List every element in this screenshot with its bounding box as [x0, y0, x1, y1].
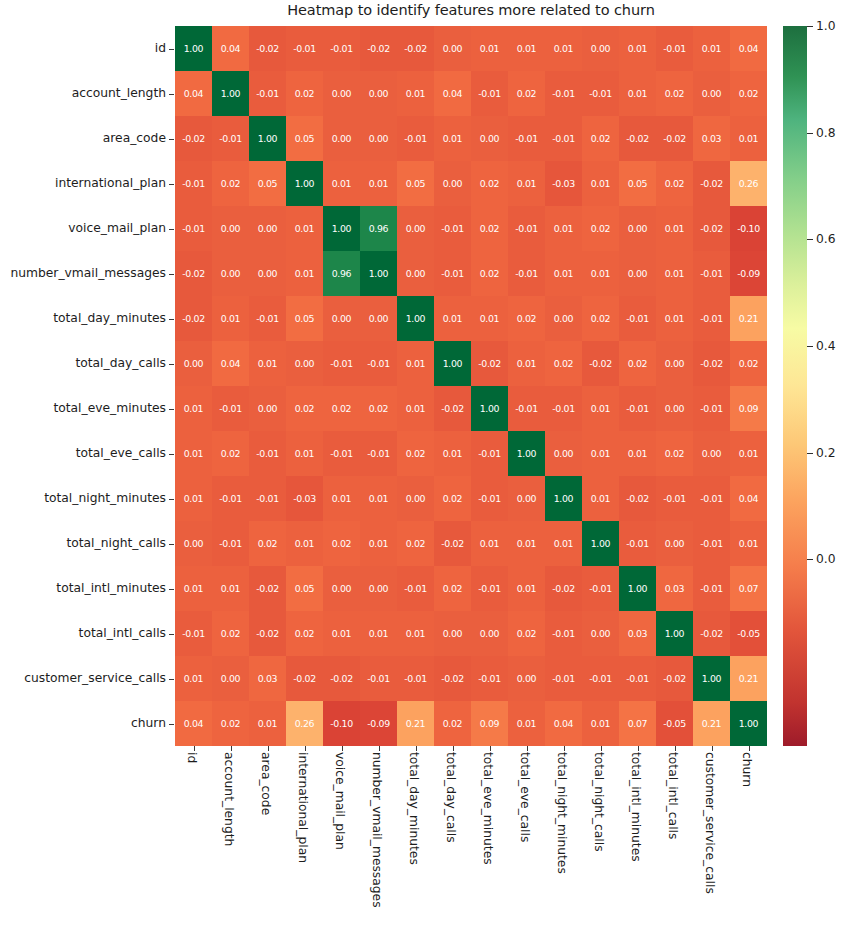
- y-tick-label: number_vmail_messages: [10, 251, 166, 296]
- heatmap-cell: 0.05: [286, 566, 323, 611]
- heatmap-cell: 0.03: [656, 566, 693, 611]
- y-tick-mark: [169, 634, 174, 635]
- heatmap-cell: -0.01: [249, 296, 286, 341]
- heatmap-cell: -0.01: [545, 656, 582, 701]
- heatmap-cell: -0.02: [693, 206, 730, 251]
- heatmap-cell: 0.01: [434, 431, 471, 476]
- heatmap-cell: 0.02: [286, 611, 323, 656]
- heatmap-cell: 0.02: [656, 431, 693, 476]
- heatmap-cell: -0.01: [508, 251, 545, 296]
- x-tick-label: international_plan: [296, 752, 310, 863]
- heatmap-cell: 1.00: [730, 701, 767, 746]
- heatmap-cell: -0.01: [693, 521, 730, 566]
- chart-title: Heatmap to identify features more relate…: [175, 2, 767, 18]
- colorbar-container: 1.00.80.60.40.20.0: [783, 26, 807, 746]
- heatmap-cell: -0.01: [693, 386, 730, 431]
- heatmap-cell: 0.00: [582, 26, 619, 71]
- y-tick-label: total_day_minutes: [53, 296, 166, 341]
- heatmap-cell: 0.00: [249, 206, 286, 251]
- heatmap-cell: -0.01: [619, 386, 656, 431]
- colorbar-tick-mark: [807, 346, 813, 347]
- y-tick-label: churn: [131, 701, 166, 746]
- heatmap-cell: 0.02: [434, 566, 471, 611]
- heatmap-cell: 1.00: [397, 296, 434, 341]
- heatmap-cell: -0.03: [545, 161, 582, 206]
- heatmap-cell: 0.00: [619, 206, 656, 251]
- x-tick-mark: [231, 746, 232, 751]
- colorbar-tick-mark: [807, 26, 813, 27]
- x-axis-labels: idaccount_lengtharea_codeinternational_p…: [175, 746, 767, 925]
- y-tick-mark: [169, 139, 174, 140]
- y-tick-label: total_intl_calls: [79, 611, 166, 656]
- heatmap-cell: -0.01: [212, 521, 249, 566]
- heatmap-cell: -0.01: [175, 161, 212, 206]
- heatmap-cell: 0.01: [582, 161, 619, 206]
- heatmap-cell: 0.00: [471, 116, 508, 161]
- heatmap-cell: -0.09: [730, 251, 767, 296]
- heatmap-cell: 0.02: [360, 386, 397, 431]
- heatmap-cell: -0.02: [249, 26, 286, 71]
- heatmap-cell: -0.02: [656, 116, 693, 161]
- heatmap-cell: -0.01: [693, 251, 730, 296]
- heatmap-cell: 0.00: [360, 116, 397, 161]
- colorbar-tick-label: 0.8: [816, 126, 836, 140]
- heatmap-cell: -0.05: [656, 701, 693, 746]
- heatmap-cell: 0.04: [730, 26, 767, 71]
- heatmap-cell: 0.21: [730, 296, 767, 341]
- y-tick-label: total_night_minutes: [44, 476, 166, 521]
- y-tick-mark: [169, 679, 174, 680]
- heatmap-cell: 0.01: [249, 341, 286, 386]
- heatmap-cell: -0.01: [508, 386, 545, 431]
- heatmap-cell: 0.01: [656, 296, 693, 341]
- heatmap-cell: -0.01: [545, 611, 582, 656]
- heatmap-cell: 0.02: [323, 386, 360, 431]
- heatmap-cell: 0.00: [360, 71, 397, 116]
- x-tick-label: churn: [740, 752, 754, 787]
- heatmap-cell: 0.03: [693, 116, 730, 161]
- x-tick-mark: [453, 746, 454, 751]
- heatmap-cell: 0.04: [730, 476, 767, 521]
- y-tick-mark: [169, 364, 174, 365]
- heatmap-cell: -0.02: [434, 386, 471, 431]
- heatmap-cell: -0.01: [471, 476, 508, 521]
- heatmap-cell: 0.00: [508, 656, 545, 701]
- heatmap-cell: 0.00: [323, 116, 360, 161]
- heatmap-cell: 0.02: [397, 521, 434, 566]
- heatmap-cell: -0.02: [360, 26, 397, 71]
- heatmap-cell: 0.02: [656, 71, 693, 116]
- y-tick-label: total_day_calls: [75, 341, 166, 386]
- x-tick-label: total_intl_minutes: [629, 752, 643, 862]
- heatmap-cell: -0.01: [323, 26, 360, 71]
- heatmap-cell: 0.01: [619, 71, 656, 116]
- heatmap-cell: 0.01: [397, 71, 434, 116]
- heatmap-cell: -0.02: [619, 116, 656, 161]
- heatmap-cell: 0.00: [656, 521, 693, 566]
- colorbar-tick-label: 0.2: [816, 446, 836, 460]
- heatmap-cell: 0.21: [730, 656, 767, 701]
- heatmap-cell: -0.01: [471, 566, 508, 611]
- heatmap-cell: -0.01: [323, 341, 360, 386]
- heatmap-cell: 0.01: [730, 431, 767, 476]
- heatmap-cell: 0.02: [286, 386, 323, 431]
- heatmap-cell: 0.01: [286, 431, 323, 476]
- heatmap-cell: -0.02: [175, 116, 212, 161]
- heatmap-cell: 0.02: [286, 71, 323, 116]
- x-tick-label: total_eve_minutes: [481, 752, 495, 865]
- heatmap-cell: 0.96: [323, 251, 360, 296]
- y-tick-mark: [169, 544, 174, 545]
- heatmap-cell: -0.01: [212, 476, 249, 521]
- heatmap-cell: 0.05: [286, 116, 323, 161]
- y-tick-label: total_intl_minutes: [56, 566, 166, 611]
- y-tick-mark: [169, 274, 174, 275]
- heatmap-cell: -0.01: [471, 431, 508, 476]
- colorbar-tick-label: 0.0: [816, 552, 836, 566]
- heatmap-cell: 0.01: [471, 296, 508, 341]
- x-tick-mark: [268, 746, 269, 751]
- y-tick-mark: [169, 454, 174, 455]
- x-tick-label: total_eve_calls: [518, 752, 532, 842]
- heatmap-cell: -0.01: [249, 71, 286, 116]
- heatmap-cell: 0.01: [545, 251, 582, 296]
- heatmap-cell: 0.00: [545, 296, 582, 341]
- heatmap-cell: 0.00: [619, 251, 656, 296]
- heatmap-cell: 0.01: [397, 611, 434, 656]
